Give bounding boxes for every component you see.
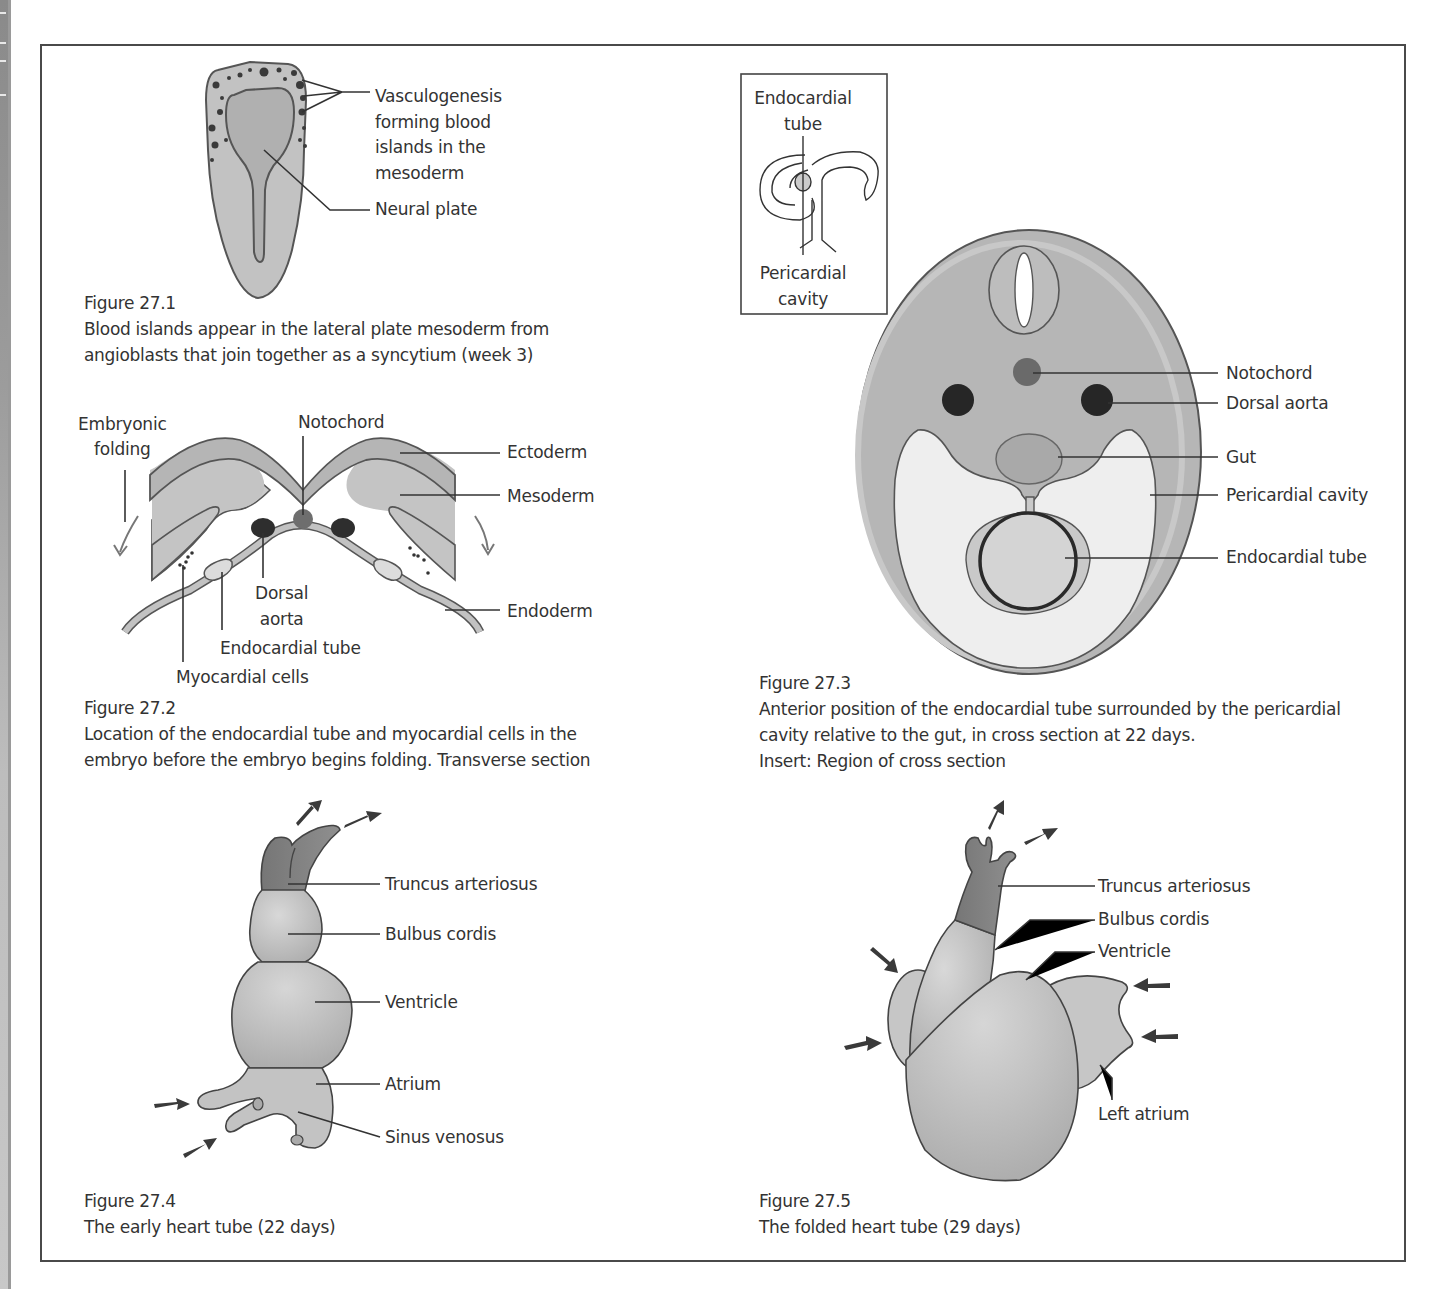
figure-caption-text: The folded heart tube (29 days): [759, 1214, 1021, 1240]
label-ventricle: Ventricle: [1098, 941, 1171, 962]
label-sinus-venosus: Sinus venosus: [385, 1127, 504, 1148]
label-ectoderm: Ectoderm: [507, 442, 587, 463]
label-embryonic-folding: Embryonic folding: [78, 412, 167, 462]
figure-27-3-caption: Figure 27.3 Anterior position of the end…: [759, 670, 1341, 774]
figure-caption-text: Anterior position of the endocardial tub…: [759, 696, 1341, 774]
figure-caption-text: The early heart tube (22 days): [84, 1214, 335, 1240]
label-endocardial-tube: Endocardial tube: [220, 638, 361, 659]
figure-number: Figure 27.3: [759, 670, 1341, 696]
label-mesoderm: Mesoderm: [507, 486, 594, 507]
figure-caption-text: Blood islands appear in the lateral plat…: [84, 316, 549, 368]
figure-27-4-caption: Figure 27.4 The early heart tube (22 day…: [84, 1188, 335, 1240]
figure-27-2-caption: Figure 27.2 Location of the endocardial …: [84, 695, 590, 773]
label-bulbus-cordis: Bulbus cordis: [385, 924, 496, 945]
label-vasculogenesis: Vasculogenesis forming blood islands in …: [375, 84, 502, 186]
figure-caption-text: Location of the endocardial tube and myo…: [84, 721, 590, 773]
figures-artwork: [0, 0, 1440, 1289]
label-ventricle: Ventricle: [385, 992, 458, 1013]
insert-label-pericardial-cavity: Pericardial cavity: [752, 260, 854, 312]
label-left-atrium: Left atrium: [1098, 1104, 1189, 1125]
label-neural-plate: Neural plate: [375, 199, 477, 220]
label-myocardial-cells: Myocardial cells: [176, 667, 309, 688]
label-bulbus-cordis: Bulbus cordis: [1098, 909, 1209, 930]
label-notochord: Notochord: [1226, 363, 1312, 384]
figure-number: Figure 27.4: [84, 1188, 335, 1214]
fig27-3-cross-section-drawing: [857, 230, 1218, 674]
label-dorsal-aorta: Dorsal aorta: [1226, 393, 1328, 414]
label-truncus-arteriosus: Truncus arteriosus: [1098, 876, 1250, 897]
figure-27-5-caption: Figure 27.5 The folded heart tube (29 da…: [759, 1188, 1021, 1240]
label-truncus-arteriosus: Truncus arteriosus: [385, 874, 537, 895]
figure-number: Figure 27.1: [84, 290, 549, 316]
fig27-4-early-heart-drawing: [154, 800, 382, 1158]
label-gut: Gut: [1226, 447, 1256, 468]
label-notochord: Notochord: [298, 412, 384, 433]
label-endocardial-tube: Endocardial tube: [1226, 547, 1367, 568]
label-pericardial-cavity: Pericardial cavity: [1226, 485, 1368, 506]
label-dorsal-aorta: Dorsal aorta: [255, 580, 308, 632]
insert-label-endocardial-tube: Endocardial tube: [752, 85, 854, 137]
label-endoderm: Endoderm: [507, 601, 593, 622]
figure-number: Figure 27.5: [759, 1188, 1021, 1214]
figure-number: Figure 27.2: [84, 695, 590, 721]
figure-27-1-caption: Figure 27.1 Blood islands appear in the …: [84, 290, 549, 368]
fig27-1-embryo-drawing: [206, 62, 370, 298]
label-atrium: Atrium: [385, 1074, 441, 1095]
